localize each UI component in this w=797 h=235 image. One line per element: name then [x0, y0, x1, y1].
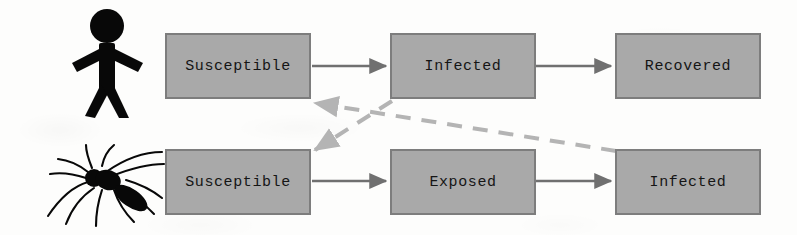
- compartmental-model-diagram: Susceptible Infected Recovered Susceptib…: [0, 0, 797, 235]
- node-label: Exposed: [429, 174, 496, 191]
- node-human-recovered[interactable]: Recovered: [615, 33, 761, 99]
- node-human-susceptible[interactable]: Susceptible: [165, 33, 311, 99]
- node-label: Susceptible: [185, 58, 291, 75]
- node-mosquito-exposed[interactable]: Exposed: [390, 149, 536, 215]
- node-human-infected[interactable]: Infected: [390, 33, 536, 99]
- node-label: Infected: [650, 174, 727, 191]
- stick-figure-person-icon: [55, 6, 160, 118]
- node-label: Infected: [425, 58, 502, 75]
- node-label: Recovered: [645, 58, 731, 75]
- node-label: Susceptible: [185, 174, 291, 191]
- mosquito-icon: [42, 142, 168, 230]
- node-mosquito-infected[interactable]: Infected: [615, 149, 761, 215]
- edge-mosquito-i-to-human-s: [315, 103, 616, 151]
- node-mosquito-susceptible[interactable]: Susceptible: [165, 149, 311, 215]
